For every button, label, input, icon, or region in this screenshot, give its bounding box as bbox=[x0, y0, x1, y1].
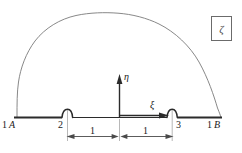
xi-axis-label: ξ bbox=[150, 100, 154, 110]
dimension-arrowhead-right-inner bbox=[120, 134, 127, 139]
eta-axis-label: η bbox=[124, 72, 129, 82]
figure-drawing bbox=[0, 0, 242, 153]
zeta-axis-label: ζ bbox=[219, 23, 223, 35]
zeta-symbol-box: ζ bbox=[211, 16, 232, 41]
node-label-right-end-number: 1 bbox=[207, 120, 212, 130]
eta-axis-arrowhead bbox=[117, 74, 123, 84]
dimension-label-left: 1 bbox=[90, 126, 95, 136]
node-label-right-end-letter: B bbox=[214, 120, 220, 130]
dimension-arrowhead-left-inner bbox=[112, 134, 119, 139]
node-label-left-end-letter: A bbox=[9, 120, 15, 130]
figure-canvas: 1 A 2 3 1 B η ξ 1 1 ζ bbox=[0, 0, 242, 153]
node-label-right-bump: 3 bbox=[176, 120, 181, 130]
node-label-left-end-number: 1 bbox=[2, 120, 7, 130]
node-label-left-bump: 2 bbox=[58, 120, 63, 130]
dimension-label-right: 1 bbox=[143, 126, 148, 136]
